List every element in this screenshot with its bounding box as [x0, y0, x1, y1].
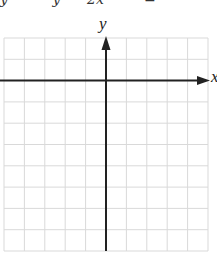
axes: [0, 36, 210, 251]
coordinate-grid: [0, 0, 217, 255]
y-axis-label: y: [99, 14, 107, 34]
x-axis-label: x: [211, 67, 217, 87]
